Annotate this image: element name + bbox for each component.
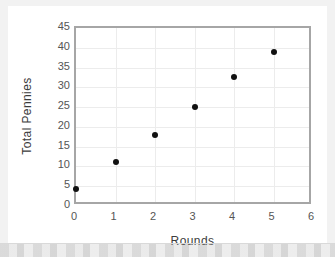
page-background: 051015202530354045 0123456 Rounds Total … (0, 0, 335, 257)
y-tick-label: 20 (58, 120, 70, 131)
gridline-vertical (155, 28, 156, 202)
gridline-vertical (116, 28, 117, 202)
scan-artifact-band (0, 244, 335, 257)
gridline-vertical (234, 28, 235, 202)
x-tick-label: 6 (299, 211, 323, 222)
y-tick-label: 15 (58, 140, 70, 151)
data-point (231, 74, 237, 80)
data-point (192, 104, 198, 110)
figure-card: 051015202530354045 0123456 Rounds Total … (8, 6, 327, 243)
y-tick-label: 5 (64, 179, 70, 190)
data-point (113, 159, 119, 165)
plot-area (74, 26, 311, 204)
x-tick-label: 5 (260, 211, 284, 222)
y-tick-label: 0 (64, 199, 70, 210)
data-point (271, 49, 277, 55)
x-tick-label: 0 (62, 211, 86, 222)
x-tick-label: 2 (141, 211, 165, 222)
gridline-vertical (195, 28, 196, 202)
y-tick-label: 30 (58, 80, 70, 91)
data-point (73, 186, 79, 192)
x-axis-tick-labels: 0123456 (74, 211, 311, 225)
y-axis-tick-labels: 051015202530354045 (38, 26, 70, 204)
y-tick-label: 45 (58, 21, 70, 32)
y-tick-label: 40 (58, 41, 70, 52)
data-point (152, 132, 158, 138)
y-tick-label: 35 (58, 61, 70, 72)
x-tick-label: 3 (181, 211, 205, 222)
y-tick-label: 10 (58, 159, 70, 170)
y-tick-label: 25 (58, 100, 70, 111)
x-tick-label: 1 (102, 211, 126, 222)
y-axis-title: Total Pennies (20, 56, 34, 176)
x-tick-label: 4 (220, 211, 244, 222)
